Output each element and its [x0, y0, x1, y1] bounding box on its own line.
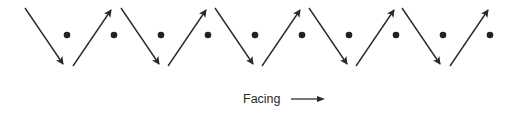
facing-caption: Facing: [243, 92, 325, 106]
position-dot: [111, 32, 118, 39]
arrow-down-icon: [402, 8, 440, 64]
arrow-up-icon: [262, 10, 300, 66]
right-arrow-icon: [291, 95, 325, 103]
arrow-down-icon: [121, 8, 159, 64]
arrow-down-icon: [309, 8, 347, 64]
arrow-up-icon: [73, 10, 111, 66]
position-dots: [64, 32, 494, 39]
facing-label: Facing: [243, 92, 281, 106]
arrow-up-icon: [356, 10, 394, 66]
position-dot: [346, 32, 353, 39]
position-dot: [158, 32, 165, 39]
arrow-up-icon: [168, 10, 206, 66]
position-dot: [299, 32, 306, 39]
position-dot: [440, 32, 447, 39]
arrow-up-icon: [450, 10, 488, 66]
arrow-down-icon: [25, 8, 63, 64]
arrow-down-icon: [215, 8, 253, 64]
position-dot: [64, 32, 71, 39]
zigzag-diagram: [0, 0, 520, 80]
position-dot: [205, 32, 212, 39]
position-dot: [487, 32, 494, 39]
position-dot: [252, 32, 259, 39]
position-dot: [393, 32, 400, 39]
